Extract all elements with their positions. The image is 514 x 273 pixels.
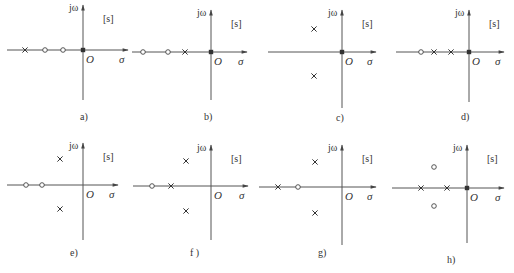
pole-marker-icon	[183, 158, 188, 163]
pole-marker-icon	[183, 208, 188, 213]
plane-label: [s]	[103, 13, 114, 24]
zero-marker-icon	[432, 165, 437, 170]
panel-a: jωσO[s]a)	[7, 2, 128, 123]
panel-c: jωσO[s]c)	[268, 7, 376, 124]
real-axis-label: σ	[238, 55, 244, 67]
real-axis-label: σ	[109, 188, 115, 200]
pole-zero-svg: jωσO[s]a)jωσO[s]b)jωσO[s]c)jωσO[s]d)jωσO…	[0, 0, 514, 273]
imag-axis-label: jω	[327, 142, 338, 153]
panel-caption: h)	[447, 254, 455, 266]
plane-label: [s]	[231, 153, 242, 164]
pole-marker-icon	[311, 73, 316, 78]
panel-caption: b)	[204, 111, 212, 123]
plane-label: [s]	[487, 153, 498, 164]
pole-marker-icon	[57, 206, 62, 211]
imag-axis-label: jω	[196, 142, 207, 153]
panel-d: jωσO[s]d)	[396, 7, 504, 123]
panel-caption: f )	[190, 247, 199, 259]
panel-g: jωσO[s]g)	[259, 142, 376, 259]
pole-marker-icon	[312, 210, 317, 215]
origin-pole-marker-icon	[209, 50, 213, 54]
imag-axis-label: jω	[454, 7, 465, 18]
real-axis-label: σ	[367, 190, 373, 202]
zero-marker-icon	[43, 48, 48, 53]
real-axis-label: σ	[239, 189, 245, 201]
imag-axis-label: jω	[68, 140, 79, 151]
plane-label: [s]	[489, 18, 500, 29]
origin-label: O	[345, 190, 353, 202]
origin-label: O	[214, 189, 222, 201]
zero-marker-icon	[432, 204, 437, 209]
imag-axis-label: jω	[327, 7, 338, 18]
origin-pole-marker-icon	[465, 186, 469, 190]
origin-label: O	[472, 55, 480, 67]
zero-marker-icon	[166, 50, 171, 55]
plane-label: [s]	[362, 18, 373, 29]
zero-marker-icon	[296, 185, 301, 190]
plane-label: [s]	[231, 18, 242, 29]
zero-marker-icon	[40, 183, 45, 188]
origin-label: O	[345, 55, 353, 67]
panel-f: jωσO[s]f )	[133, 142, 248, 259]
origin-label: O	[86, 53, 94, 65]
origin-pole-marker-icon	[340, 50, 344, 54]
pole-zero-figure: jωσO[s]a)jωσO[s]b)jωσO[s]c)jωσO[s]d)jωσO…	[0, 0, 514, 273]
origin-pole-marker-icon	[81, 48, 85, 52]
zero-marker-icon	[61, 48, 66, 53]
zero-marker-icon	[141, 50, 146, 55]
real-axis-label: σ	[495, 191, 501, 203]
zero-marker-icon	[150, 184, 155, 189]
imag-axis-label: jω	[196, 7, 207, 18]
origin-pole-marker-icon	[467, 50, 471, 54]
panel-caption: g)	[318, 247, 326, 259]
origin-label: O	[214, 55, 222, 67]
pole-marker-icon	[312, 159, 317, 164]
pole-marker-icon	[57, 156, 62, 161]
real-axis-label: σ	[495, 55, 501, 67]
plane-label: [s]	[362, 153, 373, 164]
panel-b: jωσO[s]b)	[132, 7, 247, 123]
panel-caption: a)	[80, 111, 88, 123]
origin-label: O	[470, 191, 478, 203]
panel-caption: d)	[461, 111, 469, 123]
origin-label: O	[86, 188, 94, 200]
imag-axis-label: jω	[68, 2, 79, 13]
zero-marker-icon	[419, 50, 424, 55]
real-axis-label: σ	[119, 53, 125, 65]
real-axis-label: σ	[367, 55, 373, 67]
zero-marker-icon	[24, 183, 29, 188]
panel-e: jωσO[s]e)	[7, 140, 118, 259]
plane-label: [s]	[103, 151, 114, 162]
panel-caption: e)	[70, 247, 78, 259]
panel-h: jωσO[s]h)	[392, 142, 504, 266]
panel-caption: c)	[336, 112, 344, 124]
imag-axis-label: jω	[452, 142, 463, 153]
pole-marker-icon	[311, 26, 316, 31]
